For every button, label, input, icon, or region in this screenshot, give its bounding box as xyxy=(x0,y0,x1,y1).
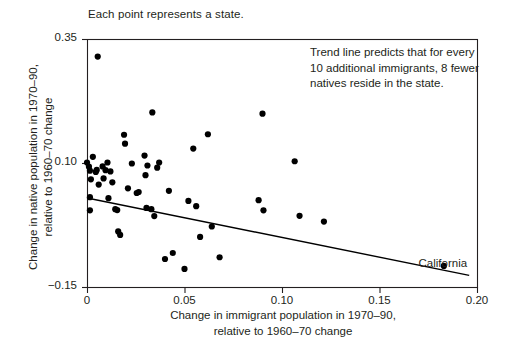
data-point xyxy=(94,167,100,173)
x-axis-label-line-1: Change in immigrant population in 1970–9… xyxy=(88,308,478,324)
y-axis-label: Change in native population in 1970–90, … xyxy=(26,42,56,292)
x-tick-label-3: 0.15 xyxy=(358,294,402,306)
data-point xyxy=(144,162,150,168)
data-point xyxy=(125,185,131,191)
data-point xyxy=(95,54,101,60)
data-point xyxy=(259,111,265,117)
data-point xyxy=(109,179,115,185)
data-point xyxy=(197,234,203,240)
data-point xyxy=(151,213,157,219)
data-point xyxy=(256,197,262,203)
data-point xyxy=(96,181,102,187)
y-axis-label-line-1: Change in native population in 1970–90, xyxy=(26,42,41,292)
annotation-line-2: 10 additional immigrants, 8 fewer xyxy=(310,61,500,77)
data-point xyxy=(296,213,302,219)
data-point xyxy=(141,152,147,158)
data-point xyxy=(107,168,113,174)
x-tick-label-2: 0.10 xyxy=(260,294,304,306)
data-point xyxy=(121,132,127,138)
data-point xyxy=(260,207,266,213)
x-tick-label-1: 0.05 xyxy=(163,294,207,306)
chart-caption-top: Each point represents a state. xyxy=(88,8,244,20)
data-point xyxy=(105,195,111,201)
data-point xyxy=(100,175,106,181)
data-point xyxy=(87,207,93,213)
data-point xyxy=(193,203,199,209)
annotation-line-3: natives reside in the state. xyxy=(310,76,500,92)
data-point xyxy=(114,207,120,213)
x-axis-label: Change in immigrant population in 1970–9… xyxy=(88,308,478,339)
data-point xyxy=(205,131,211,137)
data-point xyxy=(122,141,128,147)
x-tick-label-4: 0.20 xyxy=(455,294,499,306)
data-point xyxy=(88,176,94,182)
x-tick-label-0: 0 xyxy=(65,294,109,306)
x-axis-label-line-2: relative to 1960–70 change xyxy=(88,324,478,340)
data-point xyxy=(136,189,142,195)
data-point xyxy=(117,232,123,238)
y-axis-label-line-2: relative to 1960–70 change xyxy=(41,42,56,292)
data-point xyxy=(209,223,215,229)
data-point xyxy=(104,159,110,165)
data-point xyxy=(162,256,168,262)
data-point xyxy=(185,198,191,204)
annotation-line-1: Trend line predicts that for every xyxy=(310,45,500,61)
data-point xyxy=(142,172,148,178)
data-point xyxy=(190,146,196,152)
y-tick-label-1: 0.10 xyxy=(35,155,77,167)
data-point xyxy=(170,250,176,256)
data-point xyxy=(181,266,187,272)
y-tick-label-2: 0.35 xyxy=(35,31,77,43)
data-point xyxy=(321,218,327,224)
data-point xyxy=(87,194,93,200)
data-point xyxy=(292,158,298,164)
data-point xyxy=(90,154,96,160)
data-point xyxy=(149,109,155,115)
data-point xyxy=(129,160,135,166)
data-point xyxy=(217,254,223,260)
trend-line-annotation: Trend line predicts that for every 10 ad… xyxy=(310,45,500,92)
data-point xyxy=(148,206,154,212)
california-point-label: California xyxy=(419,257,468,269)
data-point xyxy=(166,188,172,194)
y-tick-label-0: −0.15 xyxy=(35,279,77,291)
scatter-plot-figure: Each point represents a state. Trend lin… xyxy=(0,0,530,347)
data-point xyxy=(87,168,93,174)
data-point xyxy=(156,159,162,165)
